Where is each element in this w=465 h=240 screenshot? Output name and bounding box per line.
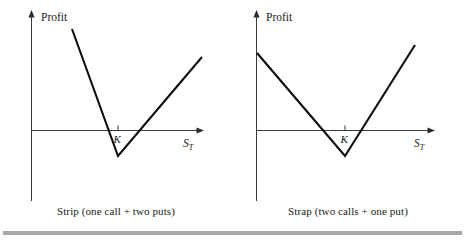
y-axis-label: Profit [266,11,293,23]
x-axis-arrowhead [428,127,436,133]
caption-strap: Strap (two calls + one put) [232,205,464,217]
y-axis-label: Profit [41,11,68,23]
x-axis-label: ST [183,137,194,152]
x-axis-label-subscript: T [189,143,194,152]
x-axis-arrowhead [197,127,205,133]
strike-label: K [113,133,122,145]
chart-panel-strip: Profit K ST Strip (one call + two puts) [0,0,232,232]
bottom-divider-rule [3,231,462,235]
strip-chart-svg: Profit K ST [0,0,232,210]
y-axis-arrowhead [28,10,34,18]
x-axis-label: ST [414,137,425,152]
caption-strip: Strip (one call + two puts) [0,205,232,217]
y-axis-arrowhead [253,10,259,18]
x-axis-label-subscript: T [420,143,425,152]
chart-panel-strap: Profit K ST Strap (two calls + one put) [232,0,464,232]
payoff-diagram-figure: Profit K ST Strip (one call + two puts) … [0,0,465,240]
strap-chart-svg: Profit K ST [232,0,464,210]
strike-label: K [340,133,349,145]
payoff-line-strap [257,45,415,156]
